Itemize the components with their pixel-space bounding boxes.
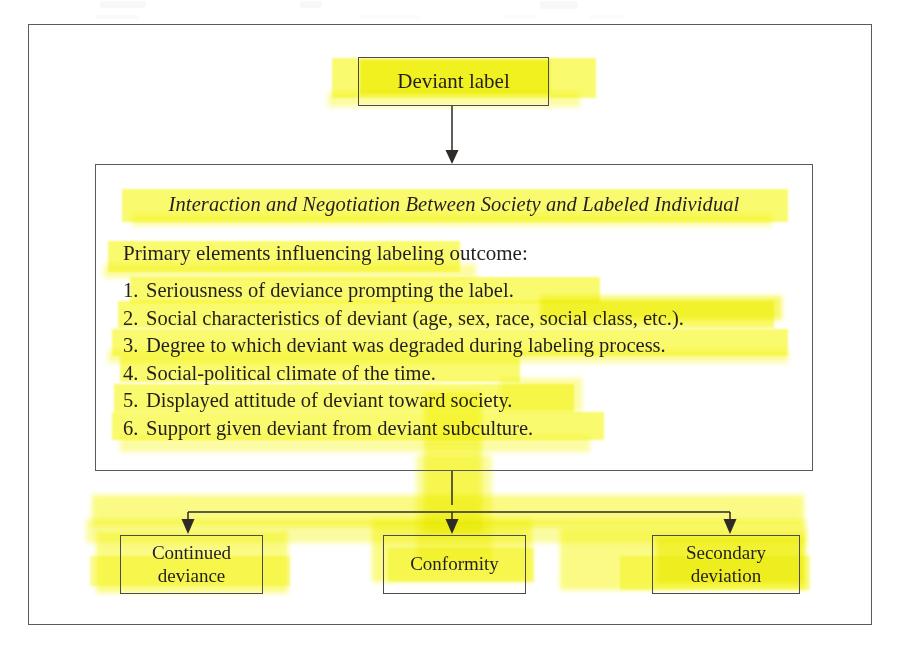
scan-artifact <box>590 15 624 19</box>
list-item: 4.Social-political climate of the time. <box>123 360 684 388</box>
list-item-number: 2. <box>123 305 146 333</box>
node-deviant-label[interactable]: Deviant label <box>358 57 549 106</box>
node-deviant-label-text: Deviant label <box>397 69 510 94</box>
list-item-number: 4. <box>123 360 146 388</box>
node-continued-deviance[interactable]: Continued deviance <box>120 535 263 594</box>
list-item-number: 1. <box>123 277 146 305</box>
list-item: 3.Degree to which deviant was degraded d… <box>123 332 684 360</box>
scan-artifact <box>100 1 146 8</box>
list-item: 5.Displayed attitude of deviant toward s… <box>123 387 684 415</box>
scan-artifact <box>300 1 322 8</box>
panel-title: Interaction and Negotiation Between Soci… <box>96 193 812 216</box>
list-item-text: Support given deviant from deviant subcu… <box>146 417 533 439</box>
node-conformity-text: Conformity <box>410 553 499 575</box>
list-item-text: Displayed attitude of deviant toward soc… <box>146 389 512 411</box>
panel-interaction-negotiation: Interaction and Negotiation Between Soci… <box>95 164 813 471</box>
list-item-text: Seriousness of deviance prompting the la… <box>146 279 514 301</box>
scan-artifact <box>505 15 535 19</box>
panel-factor-list: 1.Seriousness of deviance prompting the … <box>123 277 684 442</box>
node-continued-deviance-text: Continued deviance <box>152 542 231 587</box>
list-item-text: Degree to which deviant was degraded dur… <box>146 334 666 356</box>
list-item-number: 6. <box>123 415 146 443</box>
node-conformity[interactable]: Conformity <box>383 535 526 594</box>
list-item: 1.Seriousness of deviance prompting the … <box>123 277 684 305</box>
list-item-text: Social characteristics of deviant (age, … <box>146 307 684 329</box>
scan-artifact <box>95 15 139 19</box>
node-secondary-deviation-text: Secondary deviation <box>686 542 766 587</box>
list-item-text: Social-political climate of the time. <box>146 362 436 384</box>
list-item-number: 3. <box>123 332 146 360</box>
diagram-page: Deviant label Interaction and Negotiatio… <box>0 0 897 650</box>
scan-artifact <box>540 1 578 9</box>
list-item-number: 5. <box>123 387 146 415</box>
scan-artifact <box>360 15 420 19</box>
list-item: 2.Social characteristics of deviant (age… <box>123 305 684 333</box>
panel-intro-text: Primary elements influencing labeling ou… <box>123 241 528 266</box>
list-item: 6.Support given deviant from deviant sub… <box>123 415 684 443</box>
node-secondary-deviation[interactable]: Secondary deviation <box>652 535 800 594</box>
